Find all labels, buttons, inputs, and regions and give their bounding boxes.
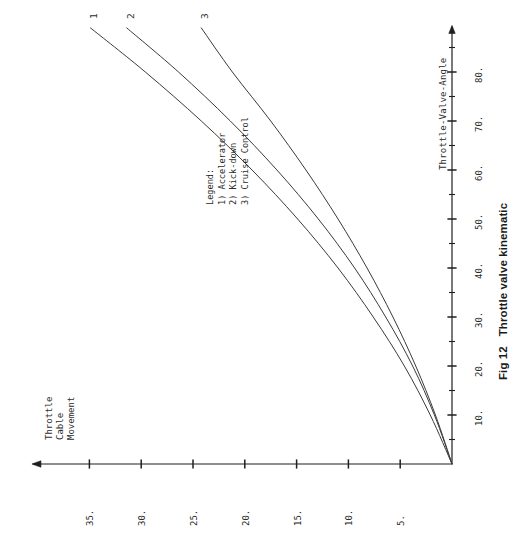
data-curve [201,28,452,464]
vertical-axis-tick-label: 10. [474,410,484,426]
vertical-axis-tick-label: 60. [474,165,484,181]
horizontal-axis-title: ThrottleCableMovement [44,397,76,440]
horizontal-axis-tick-label: 30. [137,510,147,526]
legend-entry: 3) Cruise Control [240,117,252,205]
horizontal-axis-arrowhead [32,461,41,467]
horizontal-axis-tick-label: 10. [344,510,354,526]
horizontal-axis-tick-label: 15. [293,510,303,526]
figure-caption: Fig 12 Throttle valve kinematic [497,203,509,380]
legend-entry: 2) Kick-down [228,117,240,205]
data-curve [127,28,452,464]
horizontal-axis-title-line: Throttle [44,397,55,440]
vertical-axis-tick-label: 20. [474,361,484,377]
vertical-axis-title: Throttle-Valve-Angle [438,58,448,170]
vertical-axis-tick-label: 80. [474,67,484,83]
legend-entry: 1) Accelerator [217,117,229,205]
legend: Legend:1) Accelerator2) Kick-down3) Crui… [205,117,251,205]
horizontal-axis-title-line: Movement [66,397,77,440]
horizontal-axis-title-line: Cable [55,397,66,440]
horizontal-axis-tick-label: 25. [189,510,199,526]
vertical-axis-tick-label: 40. [474,263,484,279]
horizontal-axis-tick-label: 5. [396,515,406,526]
horizontal-axis-tick-label: 20. [241,510,251,526]
data-curve [90,28,452,464]
curve-label: 3 [199,13,210,19]
vertical-axis-tick-label: 70. [474,116,484,132]
vertical-axis-tick-label: 50. [474,214,484,230]
figure-canvas: Throttle-Valve-Angle ThrottleCableMoveme… [0,0,524,549]
vertical-axis-tick-label: 30. [474,312,484,328]
curve-label: 2 [125,13,136,19]
vertical-axis-arrowhead [449,25,455,33]
legend-heading: Legend: [205,117,217,205]
horizontal-axis-tick-label: 35. [85,510,95,526]
curve-label: 1 [88,13,99,19]
